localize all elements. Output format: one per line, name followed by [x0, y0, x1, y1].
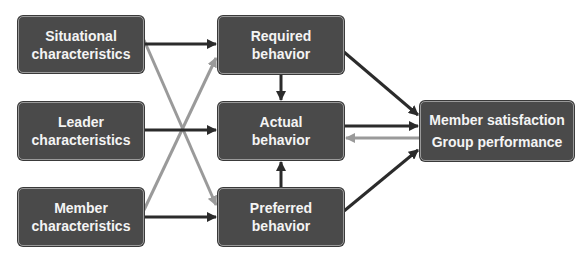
arrow-situational-to-preferred [144, 40, 216, 205]
node-preferred-behavior: Preferred behavior [218, 188, 344, 246]
arrow-preferred-to-outcome [344, 150, 418, 211]
node-member-characteristics: Member characteristics [18, 188, 144, 246]
node-required-behavior: Required behavior [218, 16, 344, 74]
node-label-line1: Required [251, 27, 312, 45]
node-label-line1: Member [54, 199, 108, 217]
node-label-line1: Actual [260, 113, 303, 131]
node-label-line1: Situational [45, 27, 117, 45]
node-label-line2: characteristics [32, 45, 131, 63]
node-label-line1: Member satisfaction [429, 109, 564, 131]
arrow-required-to-outcome [344, 52, 418, 115]
node-label-line2: characteristics [32, 217, 131, 235]
node-situational-characteristics: Situational characteristics [18, 16, 144, 73]
node-label-line2: behavior [252, 131, 310, 149]
node-outcome: Member satisfaction Group performance [420, 101, 574, 161]
node-leader-characteristics: Leader characteristics [18, 102, 144, 160]
node-label-line1: Leader [58, 113, 104, 131]
node-label-line2: characteristics [32, 131, 131, 149]
node-label-line2: Group performance [432, 131, 563, 153]
arrow-member-to-required [144, 58, 216, 210]
node-label-line2: behavior [252, 45, 310, 63]
node-label-line1: Preferred [250, 199, 312, 217]
node-label-line2: behavior [252, 217, 310, 235]
node-actual-behavior: Actual behavior [218, 102, 344, 160]
